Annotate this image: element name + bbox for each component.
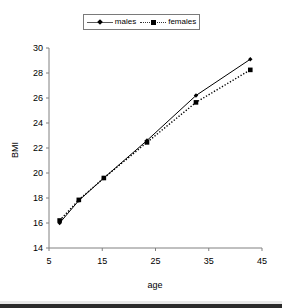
y-axis-ticks: 141618202224262830 bbox=[33, 43, 49, 253]
series-line-males bbox=[60, 59, 251, 223]
y-tick-label: 30 bbox=[33, 43, 43, 53]
x-tick-label: 15 bbox=[97, 256, 107, 266]
x-tick-label: 45 bbox=[257, 256, 267, 266]
square-marker-icon bbox=[194, 100, 199, 105]
bmi-age-line-chart: males females 141618202224262830 5152535… bbox=[0, 0, 282, 308]
square-marker-icon bbox=[248, 68, 253, 73]
y-tick-label: 14 bbox=[33, 243, 43, 253]
x-tick-label: 5 bbox=[46, 256, 51, 266]
y-tick-label: 18 bbox=[33, 193, 43, 203]
y-tick-label: 22 bbox=[33, 143, 43, 153]
x-axis-title: age bbox=[147, 280, 162, 290]
square-marker-icon bbox=[102, 176, 107, 181]
x-tick-label: 25 bbox=[150, 256, 160, 266]
y-tick-label: 20 bbox=[33, 168, 43, 178]
bottom-dark-band bbox=[0, 304, 282, 308]
y-tick-label: 26 bbox=[33, 93, 43, 103]
plot-area: 141618202224262830 515253545 BMI age bbox=[0, 0, 282, 308]
x-tick-label: 35 bbox=[204, 256, 214, 266]
square-marker-icon bbox=[145, 140, 150, 145]
series-line-females bbox=[60, 70, 251, 221]
y-tick-label: 28 bbox=[33, 68, 43, 78]
square-marker-icon bbox=[57, 218, 62, 223]
y-tick-label: 24 bbox=[33, 118, 43, 128]
x-axis-ticks: 515253545 bbox=[46, 248, 267, 266]
y-axis-title: BMI bbox=[10, 142, 20, 158]
data-series-layer bbox=[57, 57, 252, 225]
square-marker-icon bbox=[77, 198, 82, 203]
y-tick-label: 16 bbox=[33, 218, 43, 228]
